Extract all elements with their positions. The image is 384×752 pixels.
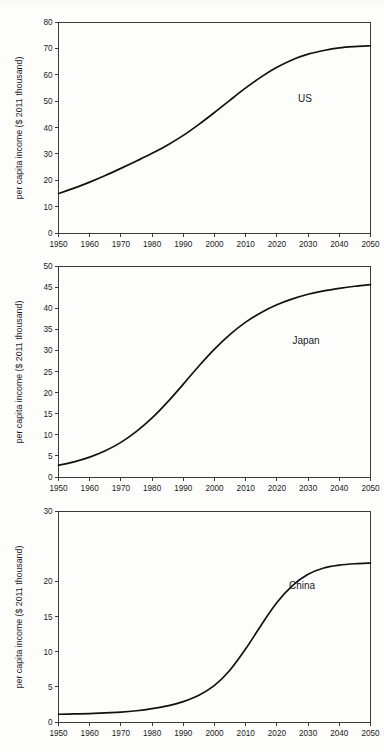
svg-text:2050: 2050 xyxy=(361,484,380,493)
x-axis-ticks-japan: 1950196019701980199020002010202020302040… xyxy=(49,477,380,493)
x-axis-ticks-us: 1950196019701980199020002010202020302040… xyxy=(49,233,380,249)
svg-text:45: 45 xyxy=(43,283,53,292)
figure-page: 01020304050607080 1950196019701980199020… xyxy=(0,0,384,752)
chart-svg-us: 01020304050607080 1950196019701980199020… xyxy=(0,0,384,250)
svg-text:2010: 2010 xyxy=(237,484,256,493)
svg-text:2020: 2020 xyxy=(268,484,287,493)
y-axis-title-china: per capita income ($ 2011 thousand) xyxy=(14,546,24,689)
svg-text:2030: 2030 xyxy=(299,240,318,249)
svg-text:30: 30 xyxy=(43,346,53,355)
svg-text:5: 5 xyxy=(48,452,53,461)
svg-text:1980: 1980 xyxy=(143,240,162,249)
y-axis-ticks-us: 01020304050607080 xyxy=(43,18,58,238)
svg-text:5: 5 xyxy=(48,683,53,692)
svg-text:30: 30 xyxy=(43,150,53,159)
svg-text:1950: 1950 xyxy=(49,729,68,738)
svg-text:1960: 1960 xyxy=(81,729,100,738)
svg-text:15: 15 xyxy=(43,410,53,419)
series-label-us: US xyxy=(298,93,312,104)
series-label-japan: Japan xyxy=(292,335,319,346)
svg-text:0: 0 xyxy=(48,718,53,727)
svg-text:35: 35 xyxy=(43,325,53,334)
svg-text:20: 20 xyxy=(43,577,53,586)
svg-text:1960: 1960 xyxy=(81,484,100,493)
svg-text:1970: 1970 xyxy=(112,240,131,249)
svg-text:2010: 2010 xyxy=(237,729,256,738)
svg-text:10: 10 xyxy=(43,648,53,657)
svg-text:1960: 1960 xyxy=(81,240,100,249)
svg-text:2040: 2040 xyxy=(330,484,349,493)
svg-text:2030: 2030 xyxy=(299,484,318,493)
y-axis-title-us: per capita income ($ 2011 thousand) xyxy=(14,57,24,200)
chart-svg-china: 0510152030 19501960197019801990200020102… xyxy=(0,500,384,750)
svg-text:1950: 1950 xyxy=(49,240,68,249)
svg-text:0: 0 xyxy=(48,229,53,238)
chart-panel-china: 0510152030 19501960197019801990200020102… xyxy=(0,500,384,750)
svg-text:2050: 2050 xyxy=(361,240,380,249)
svg-text:10: 10 xyxy=(43,431,53,440)
svg-text:2020: 2020 xyxy=(268,729,287,738)
data-curve-japan xyxy=(59,285,371,466)
svg-text:40: 40 xyxy=(43,124,53,133)
svg-text:80: 80 xyxy=(43,18,53,27)
series-label-china: China xyxy=(289,580,316,591)
svg-text:20: 20 xyxy=(43,176,53,185)
svg-text:0: 0 xyxy=(48,473,53,482)
chart-panel-us: 01020304050607080 1950196019701980199020… xyxy=(0,0,384,250)
svg-text:2000: 2000 xyxy=(205,240,224,249)
svg-text:2040: 2040 xyxy=(330,729,349,738)
svg-text:1980: 1980 xyxy=(143,729,162,738)
svg-text:70: 70 xyxy=(43,44,53,53)
svg-text:1970: 1970 xyxy=(112,484,131,493)
data-curve-us xyxy=(59,46,371,194)
svg-text:1950: 1950 xyxy=(49,484,68,493)
data-curve-china xyxy=(59,563,371,714)
svg-text:2000: 2000 xyxy=(205,484,224,493)
svg-text:20: 20 xyxy=(43,389,53,398)
y-axis-title-japan: per capita income ($ 2011 thousand) xyxy=(14,301,24,444)
svg-text:40: 40 xyxy=(43,304,53,313)
svg-text:1970: 1970 xyxy=(112,729,131,738)
svg-text:2000: 2000 xyxy=(205,729,224,738)
plot-frame-japan xyxy=(59,267,371,478)
plot-frame-china xyxy=(59,512,371,723)
svg-text:2040: 2040 xyxy=(330,240,349,249)
chart-panel-japan: 05101520253035404550 1950196019701980199… xyxy=(0,250,384,500)
svg-text:30: 30 xyxy=(43,507,53,516)
svg-text:25: 25 xyxy=(43,368,53,377)
svg-text:2010: 2010 xyxy=(237,240,256,249)
svg-text:60: 60 xyxy=(43,71,53,80)
y-axis-ticks-japan: 05101520253035404550 xyxy=(43,262,58,482)
svg-text:50: 50 xyxy=(43,262,53,271)
svg-text:10: 10 xyxy=(43,203,53,212)
svg-text:1990: 1990 xyxy=(174,240,193,249)
x-axis-ticks-china: 1950196019701980199020002010202020302040… xyxy=(49,722,380,738)
svg-text:2050: 2050 xyxy=(361,729,380,738)
svg-text:1990: 1990 xyxy=(174,484,193,493)
plot-frame-us xyxy=(59,23,371,234)
svg-text:1980: 1980 xyxy=(143,484,162,493)
svg-text:2020: 2020 xyxy=(268,240,287,249)
chart-svg-japan: 05101520253035404550 1950196019701980199… xyxy=(0,250,384,500)
svg-text:15: 15 xyxy=(43,613,53,622)
svg-text:2030: 2030 xyxy=(299,729,318,738)
svg-text:50: 50 xyxy=(43,97,53,106)
svg-text:1990: 1990 xyxy=(174,729,193,738)
y-axis-ticks-china: 0510152030 xyxy=(43,507,58,727)
